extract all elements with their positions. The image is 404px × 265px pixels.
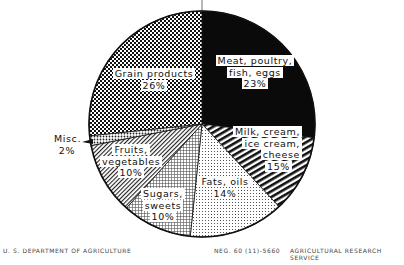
label-grain-pct: 26% <box>141 80 168 91</box>
label-milk-line3: cheese <box>261 149 302 160</box>
label-fats-pct: 14% <box>212 188 239 199</box>
label-sugars: Sugars, sweets 10% <box>138 188 188 223</box>
label-meat-pct: 23% <box>242 78 269 89</box>
label-meat-line1: Meat, poultry, <box>216 55 295 66</box>
label-meat-line2: fish, eggs <box>227 67 283 78</box>
label-fruits: Fruits, vegetables 10% <box>100 144 162 179</box>
footer-negative-number: NEG. 60 (11)-5660 <box>214 247 280 254</box>
label-milk-line2: ice cream, <box>242 138 302 149</box>
label-fats-line1: Fats, oils <box>199 176 250 187</box>
label-milk-pct: 15% <box>265 161 292 172</box>
footer-service: AGRICULTURAL RESEARCH SERVICE <box>290 247 404 261</box>
label-fruits-pct: 10% <box>118 167 145 178</box>
label-misc-line1: Misc. <box>52 133 83 144</box>
misc-pointer-icon <box>82 139 93 144</box>
label-fruits-line1: Fruits, <box>112 144 149 155</box>
label-fruits-line2: vegetables <box>100 156 162 167</box>
label-fats: Fats, oils 14% <box>195 176 255 199</box>
label-meat: Meat, poultry, fish, eggs 23% <box>210 55 300 90</box>
label-misc-pct: 2% <box>57 145 77 156</box>
label-milk: Milk, cream, ice cream, cheese 15% <box>232 126 302 172</box>
label-sugars-pct: 10% <box>150 211 177 222</box>
label-grain-line1: Grain products <box>113 68 196 79</box>
label-misc: Misc. 2% <box>52 133 82 156</box>
label-grain: Grain products 26% <box>112 68 196 91</box>
label-milk-line1: Milk, cream, <box>233 126 302 137</box>
label-sugars-line2: sweets <box>143 200 184 211</box>
footer-agency: U. S. DEPARTMENT OF AGRICULTURE <box>3 247 131 254</box>
pie-slices <box>89 11 315 237</box>
label-sugars-line1: Sugars, <box>141 188 185 199</box>
